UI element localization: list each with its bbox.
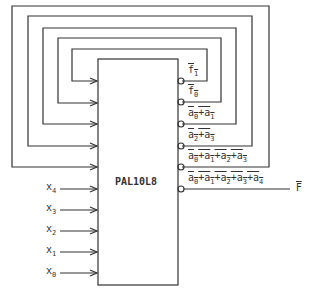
input-label: x1: [46, 245, 56, 258]
output-label: a0+a1+a2+a3: [188, 151, 247, 164]
pal-chip-box: [98, 59, 178, 285]
input-label: x0: [46, 266, 56, 279]
chip-label: PAL10L8: [115, 176, 157, 187]
output-label: f0: [188, 86, 198, 99]
feedback-wire: [28, 16, 252, 146]
feedback-wire: [72, 49, 207, 81]
feedback-wire: [12, 6, 269, 167]
input-label: x2: [46, 224, 56, 237]
output-label: a2+a3: [188, 130, 215, 143]
output-label: a0+a1+a2+a3+a4: [188, 173, 263, 186]
final-output-label: F: [296, 183, 302, 193]
output-label: f1: [188, 65, 198, 78]
output-label: a0+a1: [188, 108, 215, 121]
input-label: x4: [46, 182, 56, 195]
inverter-bubble-icon: [178, 186, 184, 192]
input-label: x3: [46, 203, 56, 216]
